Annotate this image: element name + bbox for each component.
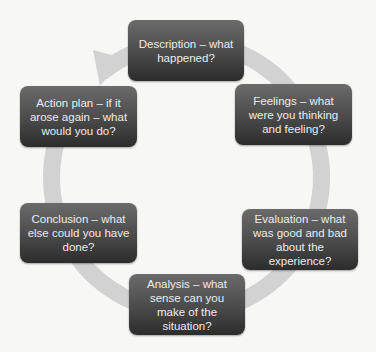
node-feelings-label: Feelings – what were you thinking and fe… [241, 94, 346, 136]
node-description-label: Description – what happened? [134, 37, 238, 65]
node-evaluation-label: Evaluation – what was good and bad about… [248, 212, 352, 268]
node-action-plan: Action plan – if it arose again – what w… [20, 86, 137, 147]
node-conclusion-label: Conclusion – what else could you have do… [26, 212, 131, 254]
node-feelings: Feelings – what were you thinking and fe… [235, 84, 352, 145]
node-analysis-label: Analysis – what sense can you make of th… [135, 277, 239, 333]
node-action-plan-label: Action plan – if it arose again – what w… [26, 96, 131, 138]
node-conclusion: Conclusion – what else could you have do… [20, 203, 137, 263]
node-evaluation: Evaluation – what was good and bad about… [242, 209, 358, 270]
node-description: Description – what happened? [128, 20, 244, 81]
node-analysis: Analysis – what sense can you make of th… [129, 274, 245, 335]
reflective-cycle-diagram: Description – what happened? Feelings – … [0, 0, 376, 352]
